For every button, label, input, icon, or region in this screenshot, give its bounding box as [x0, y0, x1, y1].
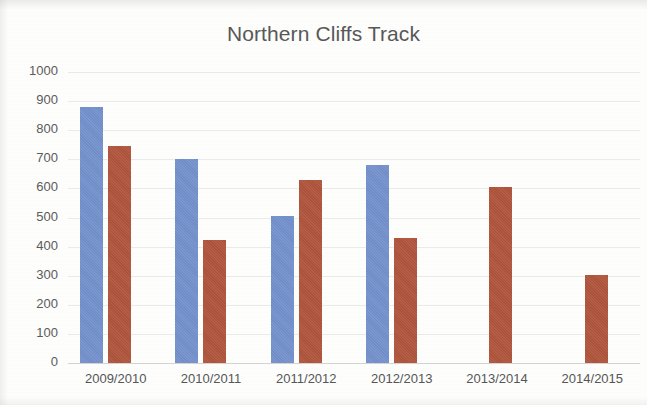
x-axis-tick-label: 2013/2014	[449, 371, 544, 386]
bar-fill	[203, 240, 226, 363]
scan-edge-top	[0, 0, 647, 10]
x-axis-tick-label: 2010/2011	[163, 371, 258, 386]
scan-edge-bottom	[0, 397, 647, 405]
bar[interactable]	[299, 180, 322, 363]
bar[interactable]	[366, 165, 389, 363]
bar[interactable]	[489, 187, 512, 363]
bar[interactable]	[80, 107, 103, 363]
y-axis-tick-label: 800	[0, 121, 58, 136]
y-axis-tick-label: 400	[0, 238, 58, 253]
bar-fill	[585, 275, 608, 363]
bar-group	[259, 72, 354, 363]
bar-fill	[299, 180, 322, 363]
bar[interactable]	[585, 275, 608, 363]
chart-title: Northern Cliffs Track	[0, 22, 647, 46]
x-axis-tick-label: 2009/2010	[68, 371, 163, 386]
bar-fill	[271, 216, 294, 363]
y-axis-tick-label: 500	[0, 209, 58, 224]
bar-fill	[80, 107, 103, 363]
bar-group	[449, 72, 544, 363]
y-axis-tick-label: 900	[0, 92, 58, 107]
bar-group	[354, 72, 449, 363]
y-axis-tick-label: 1000	[0, 63, 58, 78]
chart-container: Northern Cliffs Track 010020030040050060…	[0, 0, 647, 405]
y-axis-tick-label: 100	[0, 325, 58, 340]
axis-baseline	[68, 363, 640, 364]
bar-group	[163, 72, 258, 363]
x-axis-tick-label: 2012/2013	[354, 371, 449, 386]
bar[interactable]	[271, 216, 294, 363]
x-axis-tick-label: 2011/2012	[259, 371, 354, 386]
bar-fill	[366, 165, 389, 363]
bar[interactable]	[108, 146, 131, 363]
x-axis-tick-label: 2014/2015	[545, 371, 640, 386]
bar-fill	[489, 187, 512, 363]
bar[interactable]	[394, 238, 417, 363]
x-axis: 2009/20102010/20112011/20122012/20132013…	[68, 371, 640, 397]
bar[interactable]	[175, 159, 198, 363]
y-axis-tick-label: 600	[0, 179, 58, 194]
y-axis-tick-label: 300	[0, 267, 58, 282]
bar-group	[68, 72, 163, 363]
plot-area	[68, 72, 640, 363]
bar-group	[545, 72, 640, 363]
bar-fill	[394, 238, 417, 363]
y-axis-tick-label: 0	[0, 354, 58, 369]
bar-fill	[175, 159, 198, 363]
y-axis: 01002003004005006007008009001000	[0, 0, 62, 405]
y-axis-tick-label: 700	[0, 150, 58, 165]
bar[interactable]	[203, 240, 226, 363]
y-axis-tick-label: 200	[0, 296, 58, 311]
bar-fill	[108, 146, 131, 363]
